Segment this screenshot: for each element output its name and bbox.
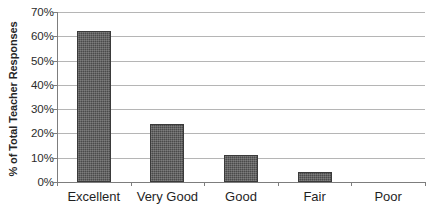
- y-axis-tick-mark: [52, 85, 57, 86]
- x-axis-tick-mark: [425, 182, 426, 186]
- x-axis-tick-labels: ExcellentVery GoodGoodFairPoor: [57, 188, 425, 208]
- x-axis-tick-mark: [204, 182, 205, 186]
- y-axis-tick-mark: [52, 12, 57, 13]
- gridline: [57, 182, 425, 183]
- x-axis-tick-label-excellent: Excellent: [57, 188, 131, 206]
- y-axis-tick-mark: [52, 158, 57, 159]
- x-axis-tick-label-good: Good: [204, 188, 278, 206]
- y-axis-tick-label: 30%: [18, 103, 54, 115]
- bar-slot: [278, 12, 352, 182]
- bars-layer: [57, 12, 425, 182]
- bar-slot: [131, 12, 205, 182]
- y-axis-tick-label: 40%: [18, 79, 54, 91]
- bar-chart: % of Total Teacher Responses 0%10%20%30%…: [0, 0, 432, 211]
- bar-excellent[interactable]: [77, 31, 111, 182]
- bar-slot: [351, 12, 425, 182]
- x-axis-tick-mark: [351, 182, 352, 186]
- y-axis-tick-label: 20%: [18, 127, 54, 139]
- x-axis-tick-label-very-good: Very Good: [131, 188, 205, 206]
- y-axis-tick-label: 70%: [18, 6, 54, 18]
- y-axis-tick-label: 60%: [18, 30, 54, 42]
- y-axis-tick-mark: [52, 61, 57, 62]
- y-axis-tick-labels: 0%10%20%30%40%50%60%70%: [18, 0, 54, 211]
- bar-fair[interactable]: [298, 172, 332, 182]
- bar-good[interactable]: [224, 155, 258, 182]
- y-axis-tick-mark: [52, 109, 57, 110]
- y-axis-tick-label: 50%: [18, 55, 54, 67]
- bar-slot: [204, 12, 278, 182]
- x-axis-tick-label-poor: Poor: [351, 188, 425, 206]
- x-axis-tick-mark: [131, 182, 132, 186]
- y-axis-tick-label: 0%: [18, 176, 54, 188]
- y-axis-tick-mark: [52, 133, 57, 134]
- bar-very-good[interactable]: [150, 124, 184, 182]
- x-axis-tick-label-fair: Fair: [278, 188, 352, 206]
- x-axis-tick-mark: [57, 182, 58, 186]
- y-axis-tick-label: 10%: [18, 152, 54, 164]
- x-axis-tick-mark: [278, 182, 279, 186]
- y-axis-tick-mark: [52, 36, 57, 37]
- bar-slot: [57, 12, 131, 182]
